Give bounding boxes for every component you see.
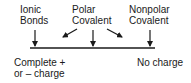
complete-charge-label: Complete + or – charge: [14, 57, 65, 79]
label-line: No charge: [137, 57, 183, 68]
no-charge-label: No charge: [137, 57, 183, 68]
arrow-diagonal-left-icon: [63, 29, 77, 37]
label-line: Complete +: [14, 57, 65, 68]
arrow-diagonal-right-icon: [107, 29, 122, 37]
label-line: or – charge: [14, 68, 65, 79]
